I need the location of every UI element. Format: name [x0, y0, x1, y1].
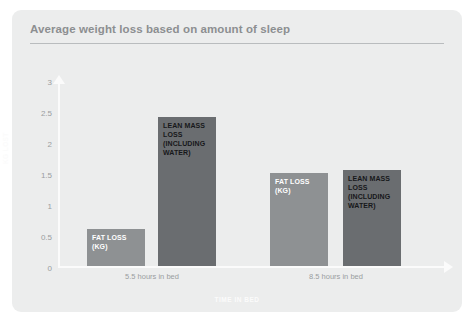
y-tick-label: 3 [20, 78, 52, 87]
y-tick-label: 2 [20, 140, 52, 149]
y-tick-label: 2.5 [20, 109, 52, 118]
bar-label: FAT LOSS (KG) [92, 233, 142, 251]
bar-label: LEAN MASS LOSS (INCLUDING WATER) [348, 174, 398, 210]
bar-lean-mass-loss-8-5[interactable]: LEAN MASS LOSS (INCLUDING WATER) [343, 170, 401, 266]
bar-chart: 0 0.5 1 1.5 2 2.5 3 KG LOST FAT LOSS (KG… [12, 10, 462, 312]
x-axis-line [58, 266, 446, 268]
bar-label: LEAN MASS LOSS (INCLUDING WATER) [163, 121, 213, 157]
x-axis-title: TIME IN BED [12, 296, 462, 303]
chart-card: Average weight loss based on amount of s… [12, 10, 462, 312]
y-tick-label: 0.5 [20, 233, 52, 242]
bar-fat-loss-5-5[interactable]: FAT LOSS (KG) [87, 229, 145, 266]
y-axis-ticks: 0 0.5 1 1.5 2 2.5 3 [20, 10, 52, 312]
y-axis-arrow-icon [53, 75, 65, 84]
x-tick-label-5-5-hours: 5.5 hours in bed [125, 272, 179, 281]
x-tick-label-8-5-hours: 8.5 hours in bed [309, 272, 363, 281]
y-tick-label: 1.5 [20, 171, 52, 180]
y-axis-line [58, 82, 60, 268]
y-tick-label: 0 [20, 264, 52, 273]
y-axis-title: KG LOST [2, 132, 9, 164]
x-axis-arrow-icon [444, 261, 453, 273]
bar-fat-loss-8-5[interactable]: FAT LOSS (KG) [270, 173, 328, 266]
y-tick-label: 1 [20, 202, 52, 211]
bar-lean-mass-loss-5-5[interactable]: LEAN MASS LOSS (INCLUDING WATER) [158, 117, 216, 266]
bar-label: FAT LOSS (KG) [275, 177, 325, 195]
